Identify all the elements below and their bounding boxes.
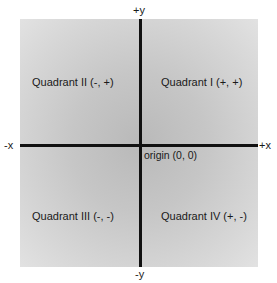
- positive-x-label: +x: [259, 139, 271, 151]
- quadrant-4-label: Quadrant IV (+, -): [161, 210, 247, 222]
- negative-y-label: -y: [135, 268, 144, 280]
- quadrant-1-label: Quadrant I (+, +): [161, 76, 242, 88]
- positive-y-label: +y: [133, 4, 145, 16]
- origin-label: origin (0, 0): [144, 149, 197, 161]
- negative-x-label: -x: [4, 139, 13, 151]
- quadrant-3-label: Quadrant III (-, -): [32, 210, 114, 222]
- x-axis-line: [20, 144, 258, 147]
- quadrant-2-label: Quadrant II (-, +): [32, 76, 114, 88]
- y-axis-line: [139, 19, 142, 267]
